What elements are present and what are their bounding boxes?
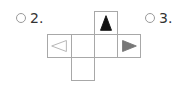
net-face-middle-left bbox=[47, 34, 72, 58]
answer-option-3[interactable]: 3. bbox=[145, 10, 172, 26]
net-face-middle-right bbox=[117, 34, 141, 58]
option-label: 3. bbox=[159, 10, 172, 26]
radio-button[interactable] bbox=[16, 13, 26, 23]
net-face-middle-center-left bbox=[71, 34, 95, 58]
answer-option-2[interactable]: 2. bbox=[16, 10, 43, 26]
radio-button[interactable] bbox=[145, 13, 155, 23]
net-face-top bbox=[94, 11, 118, 35]
triangle-right-icon bbox=[118, 35, 140, 57]
net-face-middle-center-right bbox=[94, 34, 118, 58]
triangle-left-outline-icon bbox=[48, 35, 71, 57]
net-face-bottom bbox=[71, 57, 95, 81]
option-label: 2. bbox=[30, 10, 43, 26]
triangle-up-icon bbox=[95, 12, 117, 34]
